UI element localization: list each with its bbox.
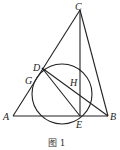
label-c: C: [75, 1, 82, 12]
label-a: A: [2, 111, 10, 122]
segment-bc: [80, 10, 108, 116]
label-g: G: [25, 75, 32, 86]
figure-caption: 图 1: [48, 138, 66, 148]
label-d: D: [32, 62, 41, 73]
label-b: B: [110, 111, 116, 122]
geometry-figure: C D G H A E B 图 1: [0, 0, 120, 150]
label-e: E: [75, 119, 82, 130]
label-h: H: [69, 77, 78, 88]
segment-ac: [13, 10, 80, 116]
